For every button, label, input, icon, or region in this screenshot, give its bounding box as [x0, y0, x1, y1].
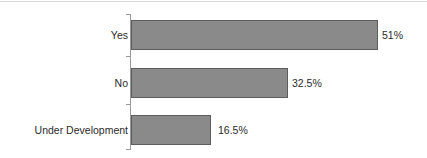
category-label-yes: Yes	[0, 29, 128, 41]
value-label-under-development: 16.5%	[218, 124, 248, 136]
plot-area: Yes 51% No 32.5% Under Development 16.5%	[0, 0, 427, 158]
bar-chart: Yes 51% No 32.5% Under Development 16.5%	[0, 0, 427, 158]
axis-tick	[126, 14, 131, 15]
bar-under-development[interactable]	[131, 115, 211, 145]
value-label-no: 32.5%	[292, 77, 322, 89]
axis-tick	[126, 56, 131, 57]
value-label-yes: 51%	[382, 29, 403, 41]
category-label-no: No	[0, 77, 128, 89]
axis-tick	[126, 104, 131, 105]
bar-no[interactable]	[131, 68, 288, 98]
bar-yes[interactable]	[131, 20, 378, 50]
category-label-under-development: Under Development	[0, 124, 128, 136]
axis-tick	[126, 149, 131, 150]
